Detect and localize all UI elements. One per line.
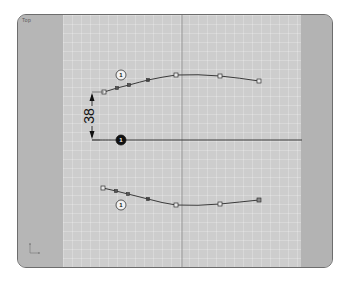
control-point[interactable] [174,203,178,207]
control-point[interactable] [127,193,130,196]
control-point[interactable] [116,87,119,90]
control-point[interactable] [218,202,222,206]
drawing-canvas[interactable]: 1 38 1 1 [0,0,359,284]
upper-curve-label-badge: 1 [116,70,126,80]
lower-curve-label-badge: 1 [116,200,126,210]
vertical-dimension[interactable]: 38 [81,92,104,140]
control-point[interactable] [101,186,105,190]
control-point[interactable] [147,198,150,201]
axis-triad-icon [29,243,40,254]
control-point[interactable] [128,84,131,87]
control-point[interactable] [257,198,261,202]
control-point[interactable] [174,73,178,77]
control-point[interactable] [218,74,222,78]
arrow-up-icon [90,93,95,101]
dimension-value: 38 [81,108,97,124]
control-point[interactable] [147,79,150,82]
control-point[interactable] [115,190,118,193]
arrow-down-icon [90,131,95,139]
control-point[interactable] [257,79,261,83]
reference-line-label-badge: 1 [116,135,126,145]
